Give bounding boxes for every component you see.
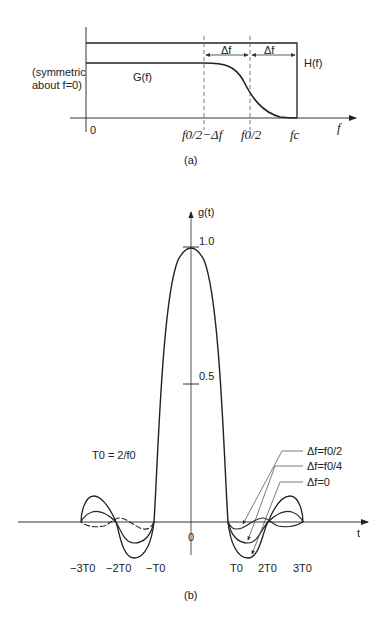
tick-f0-minus-df: f0/2−Δf bbox=[182, 129, 222, 141]
df-label-1: Δf bbox=[221, 44, 231, 56]
tick-2T0: 2T0 bbox=[258, 562, 277, 574]
panel-a bbox=[70, 27, 356, 132]
df-label-2: Δf bbox=[264, 44, 274, 56]
legend-df-half: Δf=f0/2 bbox=[307, 445, 342, 457]
tick-minus-T0: −T0 bbox=[146, 562, 165, 574]
G-curve bbox=[86, 63, 297, 118]
symmetric-note-line1: (symmetric bbox=[32, 66, 86, 78]
tick-3T0: 3T0 bbox=[293, 562, 312, 574]
tick-minus-3T0: −3T0 bbox=[70, 562, 95, 574]
leader-df-quarter bbox=[248, 466, 303, 540]
caption-b: (b) bbox=[184, 589, 197, 601]
curve-df0 bbox=[228, 496, 303, 558]
G-label: G(f) bbox=[133, 71, 152, 83]
legend-df-quarter: Δf=f0/4 bbox=[307, 460, 342, 472]
symmetric-note-line2: about f=0) bbox=[32, 79, 82, 91]
y-tick-0.5: 0.5 bbox=[199, 370, 214, 382]
tick-f0-half: f0/2 bbox=[241, 129, 261, 141]
tick-minus-2T0: −2T0 bbox=[106, 562, 131, 574]
zero-label-b: 0 bbox=[188, 531, 194, 543]
caption-a: (a) bbox=[184, 154, 197, 166]
f-axis-label: f bbox=[337, 122, 341, 134]
figure-canvas bbox=[0, 0, 390, 628]
tick-fc: fc bbox=[290, 129, 299, 141]
t-axis-label: t bbox=[357, 527, 360, 539]
panel-b bbox=[18, 212, 368, 558]
zero-label-a: 0 bbox=[90, 124, 96, 136]
legend-df0: Δf=0 bbox=[307, 476, 330, 488]
H-label: H(f) bbox=[304, 57, 322, 69]
T0-definition: T0 = 2/f0 bbox=[92, 449, 136, 461]
y-tick-1.0: 1.0 bbox=[199, 235, 214, 247]
tick-T0: T0 bbox=[230, 562, 243, 574]
g-axis-label: g(t) bbox=[198, 206, 215, 218]
